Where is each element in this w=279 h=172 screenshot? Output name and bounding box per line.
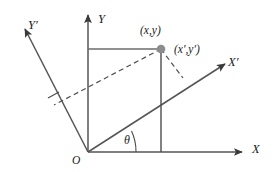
data-point-marker bbox=[157, 45, 166, 54]
dashed-projection-to-y-prime bbox=[54, 49, 161, 105]
right-angle-tick-y-prime bbox=[48, 92, 59, 98]
origin-label: O bbox=[72, 155, 80, 167]
coordinate-rotation-diagram: Y X Y′ X′ O θ (x,y) (x′,y′) bbox=[0, 0, 279, 172]
x-axis-label: X bbox=[252, 143, 260, 156]
y-prime-axis-label: Y′ bbox=[28, 19, 38, 32]
point-xy-label: (x,y) bbox=[140, 25, 161, 37]
angle-theta-label: θ bbox=[124, 134, 130, 146]
y-axis-label: Y bbox=[98, 13, 105, 26]
y-prime-axis-line bbox=[25, 29, 88, 152]
x-prime-axis-label: X′ bbox=[228, 56, 238, 69]
angle-arc bbox=[132, 131, 137, 152]
point-xy-prime-label: (x′,y′) bbox=[174, 44, 200, 56]
x-prime-axis-line bbox=[88, 64, 225, 152]
